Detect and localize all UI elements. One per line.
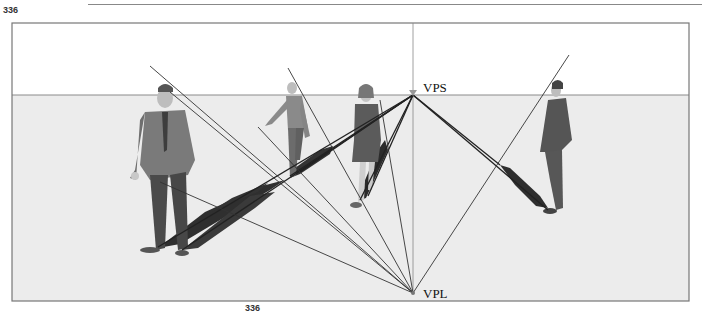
ground-plane [12, 95, 689, 301]
sky [12, 23, 689, 95]
vpl-marker [411, 291, 415, 295]
vpl-label: VPL [423, 286, 448, 301]
vps-label: VPS [423, 80, 447, 95]
perspective-diagram: VPS VPL [0, 0, 702, 315]
figure-number-bottom: 336 [245, 303, 260, 313]
